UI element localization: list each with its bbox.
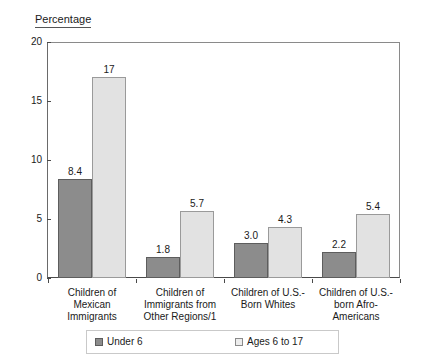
bar-value-label: 5.4: [356, 201, 390, 212]
y-axis-tick-label: 10: [31, 155, 42, 165]
dark-gray-swatch-icon: [95, 338, 103, 346]
bar: [146, 257, 180, 278]
chart-legend: Under 6 Ages 6 to 17: [86, 330, 339, 354]
chart-title: Percentage: [35, 13, 91, 28]
bar: [180, 211, 214, 278]
bar: [322, 252, 356, 278]
y-axis-tick-label: 5: [36, 214, 42, 224]
x-axis-separator-tick: [136, 279, 137, 283]
bar-value-label: 2.2: [322, 239, 356, 250]
x-axis-separator-tick: [400, 279, 401, 283]
bar: [268, 227, 302, 278]
x-axis-category-label: Children of U.S.-born Afro-Americans: [312, 287, 400, 323]
bar: [92, 77, 126, 278]
x-axis-category-label: Children of U.S.-Born Whites: [224, 287, 312, 311]
legend-item-label: Ages 6 to 17: [247, 336, 303, 348]
bar-value-label: 1.8: [146, 244, 180, 255]
x-axis-separator-tick: [48, 279, 49, 283]
legend-item-ages-6-to-17: Ages 6 to 17: [235, 336, 303, 348]
bars-layer: 8.4171.85.73.04.32.25.4: [48, 42, 400, 278]
bar-value-label: 8.4: [58, 166, 92, 177]
x-axis-separator-tick: [312, 279, 313, 283]
bar: [234, 243, 268, 278]
x-axis-separator-tick: [224, 279, 225, 283]
legend-item-label: Under 6: [107, 336, 143, 348]
bar: [58, 179, 92, 278]
legend-item-under-6: Under 6: [95, 336, 143, 348]
bar-chart: Percentage 20151050 8.4171.85.73.04.32.2…: [0, 0, 422, 360]
x-axis-category-label: Children of MexicanImmigrants: [48, 287, 136, 323]
y-axis: 20151050: [18, 0, 42, 360]
bar-value-label: 17: [92, 64, 126, 75]
bar: [356, 214, 390, 278]
y-axis-tick-label: 20: [31, 37, 42, 47]
bar-value-label: 4.3: [268, 214, 302, 225]
bar-value-label: 3.0: [234, 230, 268, 241]
light-gray-swatch-icon: [235, 338, 243, 346]
x-axis-category-label: Children ofImmigrants fromOther Regions/…: [136, 287, 224, 323]
y-axis-tick-label: 15: [31, 96, 42, 106]
y-axis-tick-label: 0: [36, 273, 42, 283]
bar-value-label: 5.7: [180, 198, 214, 209]
